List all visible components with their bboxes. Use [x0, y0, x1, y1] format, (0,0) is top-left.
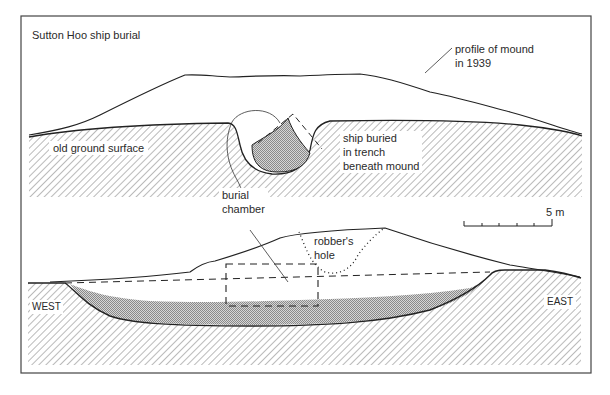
upper-section [29, 48, 582, 197]
old-ground-surface-label: old ground surface [49, 141, 148, 155]
ship-hull-fill [252, 118, 310, 172]
burial-chamber-outline-lower [226, 264, 318, 306]
mound-profile-leader [425, 48, 452, 73]
scale-bar-label: 5 m [546, 205, 564, 219]
mound-profile-label: profile of mound in 1939 [455, 42, 534, 70]
figure-title: Sutton Hoo ship burial [32, 28, 140, 42]
east-label: EAST [544, 295, 576, 309]
scale-bar [464, 219, 552, 226]
lower-section [28, 219, 581, 365]
robbers-hole-label: robber's hole [314, 234, 353, 262]
west-label: WEST [30, 300, 63, 314]
burial-chamber-label: burial chamber [219, 188, 268, 216]
ship-trench-label: ship buried in trench beneath mound [340, 131, 422, 173]
